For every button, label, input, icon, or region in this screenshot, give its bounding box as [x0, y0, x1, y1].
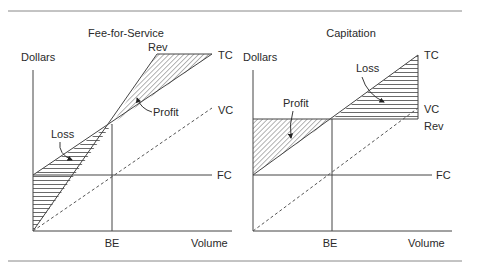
y-axis-label: Dollars — [243, 51, 278, 63]
panel-title: Capitation — [326, 27, 376, 39]
profit-annotation: Profit — [153, 106, 179, 118]
break-even-label: BE — [323, 237, 338, 249]
panel-capitation: Capitation Dollars FC TC Rev VC BE Volum… — [243, 27, 452, 249]
rev-line — [33, 54, 157, 231]
panel-fee-for-service: Fee-for-Service Dollars FC TC Rev VC BE … — [21, 27, 233, 249]
panel-title: Fee-for-Service — [88, 27, 164, 39]
break-even-label: BE — [105, 237, 120, 249]
rev-label: Rev — [424, 120, 444, 132]
vc-label: VC — [218, 104, 233, 116]
fc-label: FC — [436, 169, 451, 181]
tc-label: TC — [218, 49, 233, 61]
rev-label: Rev — [148, 41, 168, 53]
fc-label: FC — [217, 169, 232, 181]
y-axis-label: Dollars — [21, 51, 56, 63]
profit-annotation: Profit — [283, 97, 309, 109]
vc-label: VC — [424, 103, 439, 115]
x-axis-label: Volume — [191, 237, 228, 249]
tc-line — [33, 54, 212, 175]
x-axis-label: Volume — [408, 237, 445, 249]
loss-annotation: Loss — [356, 62, 380, 74]
loss-annotation: Loss — [51, 128, 75, 140]
breakeven-comparison-figure: Fee-for-Service Dollars FC TC Rev VC BE … — [0, 0, 477, 272]
tc-label: TC — [424, 49, 439, 61]
